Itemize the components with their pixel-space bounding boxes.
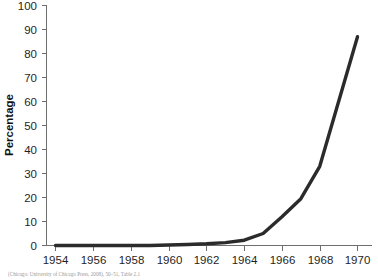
y-axis-title: Percentage [3,94,15,156]
y-tick-marks [42,6,47,246]
x-tick-label: 1968 [308,254,334,266]
line-chart: 100 90 80 70 60 50 40 30 20 10 0 1954 19… [0,0,378,280]
x-tick-label: 1970 [345,254,371,266]
y-tick-label: 100 [18,0,37,12]
x-tick-label: 1962 [194,254,220,266]
y-tick-label: 80 [24,48,37,60]
y-tick-label: 40 [24,144,37,156]
figure-caption: (Chicago: University of Chicago Press, 2… [8,271,368,277]
y-tick-label: 50 [24,120,37,132]
y-tick-label: 60 [24,96,37,108]
chart-figure: 100 90 80 70 60 50 40 30 20 10 0 1954 19… [0,0,378,280]
y-tick-label: 0 [31,240,37,252]
y-tick-label: 10 [24,216,37,228]
y-tick-label: 20 [24,192,37,204]
y-tick-labels: 100 90 80 70 60 50 40 30 20 10 0 [18,0,37,252]
x-tick-label: 1956 [81,254,107,266]
y-tick-label: 90 [24,24,37,36]
x-tick-label: 1954 [43,254,69,266]
x-tick-label: 1964 [232,254,258,266]
x-tick-label: 1960 [157,254,183,266]
x-tick-labels: 1954 1956 1958 1960 1962 1964 1966 1968 … [43,254,371,266]
y-tick-label: 30 [24,168,37,180]
x-tick-label: 1958 [119,254,145,266]
y-tick-label: 70 [24,72,37,84]
data-series-line [56,37,358,246]
x-tick-label: 1966 [270,254,296,266]
